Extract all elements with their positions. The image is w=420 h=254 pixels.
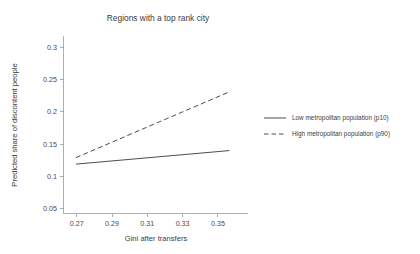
- chart-canvas: Regions with a top rank city 0.050.10.15…: [0, 0, 420, 254]
- y-axis-ticks: 0.050.10.150.20.250.3: [43, 43, 64, 213]
- legend-label-2: High metropolitan population (p90): [292, 130, 390, 138]
- y-tick-label: 0.3: [47, 43, 57, 52]
- x-axis-title: Gini after transfers: [125, 234, 188, 243]
- y-tick-label: 0.15: [43, 140, 57, 149]
- series-lines: [76, 92, 230, 164]
- x-tick-label: 0.33: [176, 219, 190, 228]
- y-tick-label: 0.05: [43, 204, 57, 213]
- x-tick-label: 0.31: [140, 219, 154, 228]
- chart-figure: Regions with a top rank city 0.050.10.15…: [0, 0, 420, 254]
- x-axis-ticks: 0.270.290.310.330.35: [70, 214, 225, 229]
- y-tick-label: 0.25: [43, 75, 57, 84]
- chart-title: Regions with a top rank city: [107, 13, 210, 23]
- x-tick-label: 0.27: [70, 219, 84, 228]
- y-tick-label: 0.1: [47, 172, 57, 181]
- x-tick-label: 0.35: [211, 219, 225, 228]
- y-axis-title: Predicted share of discontent people: [10, 63, 19, 186]
- x-tick-label: 0.29: [105, 219, 119, 228]
- series-line-1: [76, 151, 230, 165]
- y-tick-label: 0.2: [47, 107, 57, 116]
- chart-legend: Low metropolitan population (p10)High me…: [264, 114, 390, 138]
- legend-label-1: Low metropolitan population (p10): [292, 114, 389, 122]
- series-line-2: [76, 92, 230, 158]
